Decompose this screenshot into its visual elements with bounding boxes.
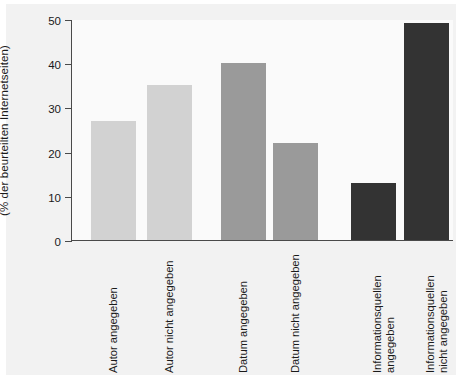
y-axis-tick: 10 [65,197,72,198]
x-axis-category-line: angegeben [384,247,397,373]
y-axis-tick-label: 0 [55,236,61,248]
y-axis-tick-label: 50 [48,15,61,27]
bar [273,143,318,240]
x-axis-category-line: Autor angegeben [107,247,120,373]
x-axis-category-text: Informationsquellenangegeben [371,247,397,373]
y-axis-tick: 40 [65,64,72,65]
y-axis-tick: 30 [65,108,72,109]
x-axis-category-text: Datum angegeben [237,247,250,373]
x-axis-category-text: Autor nicht angegeben [163,247,176,373]
x-axis-category-text: Datum nicht angegeben [289,247,302,373]
x-axis-category-line: Informationsquellen [424,247,437,373]
x-axis-category-label: Informationsquellennicht angegeben [424,247,462,375]
bar [91,121,136,240]
bar [404,23,449,240]
plot-frame: 01020304050 [71,20,453,241]
x-axis-category-line: Autor nicht angegeben [163,247,176,373]
x-axis-category-line: Informationsquellen [371,247,384,373]
y-axis-label: (% der beurteilten Internetseiten) [0,20,14,241]
y-axis-tick-label: 30 [48,103,61,115]
y-axis-tick: 50 [65,20,72,21]
x-axis-category-text: Informationsquellennicht angegeben [424,247,450,373]
y-axis-tick-label: 40 [48,59,61,71]
bar [351,183,396,240]
plot-area [72,20,453,240]
bar-chart-figure: (% der beurteilten Internetseiten) 01020… [0,0,462,379]
y-axis-tick-label: 10 [48,192,61,204]
y-axis-tick-label: 20 [48,148,61,160]
x-axis-category-line: nicht angegeben [437,247,450,373]
y-axis-tick: 0 [65,241,72,242]
x-axis-category-text: Autor angegeben [107,247,120,373]
y-axis-tick: 20 [65,153,72,154]
bar [221,63,266,240]
x-axis-category-line: Datum angegeben [237,247,250,373]
bar [147,85,192,240]
x-axis-category-line: Datum nicht angegeben [289,247,302,373]
